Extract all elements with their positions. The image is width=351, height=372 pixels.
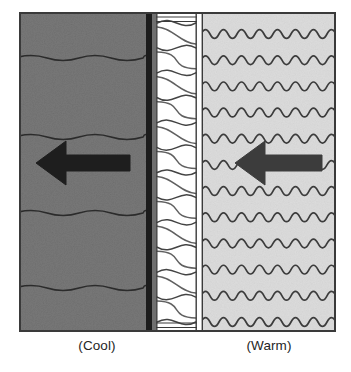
batt-insulation-region <box>156 12 197 332</box>
vapor-barrier-strip <box>146 12 156 332</box>
interior-sheathing-gap <box>197 12 203 332</box>
diagram-canvas <box>0 0 351 372</box>
wall-heat-flow-diagram: (Cool) (Warm) <box>0 0 351 372</box>
warm-interior-region <box>201 12 338 332</box>
cool-exterior-region <box>15 12 148 332</box>
